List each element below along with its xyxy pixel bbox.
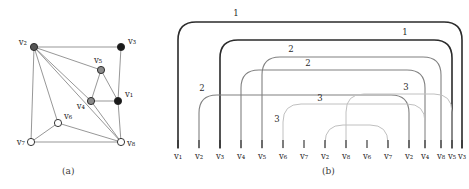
arc-label-2: 2: [288, 44, 293, 54]
arc-label-1: 1: [233, 8, 238, 18]
graph-edge: [118, 101, 121, 142]
spine-label-2: v₂: [194, 151, 203, 161]
graph-edge: [31, 123, 58, 142]
graph-edge: [58, 123, 121, 142]
spine-label-10: v₆: [362, 151, 372, 161]
figure-container: v₁v₂v₃v₄v₅v₆v₇v₈ 11222333v₁v₂v₃v₄v₅v₆v₇v…: [0, 0, 469, 189]
graph-edge: [31, 47, 34, 142]
arc-label-3: 3: [317, 93, 322, 103]
graph-vertex-v5[interactable]: [97, 66, 104, 73]
arc-label-1: 1: [402, 27, 407, 37]
graph-vertex-label-v5: v₅: [93, 55, 103, 65]
graph-edge: [34, 47, 121, 142]
spine-label-3: v₃: [215, 151, 224, 161]
spine-label-16: v₃: [457, 151, 466, 161]
graph-vertex-label-v3: v₃: [127, 36, 136, 46]
spine-label-8: v₂: [320, 151, 329, 161]
arc-label-3: 3: [403, 82, 408, 92]
arc-label-2: 2: [305, 58, 310, 68]
arc-page-2: [241, 70, 425, 148]
graph-vertex-v2[interactable]: [30, 43, 37, 50]
caption-panel-a: (a): [62, 166, 74, 176]
spine-label-1: v₁: [173, 151, 182, 161]
spine-label-7: v₇: [299, 151, 309, 161]
spine-label-14: v₈: [436, 151, 446, 161]
graph-vertex-label-v4: v₄: [76, 101, 86, 111]
graph-vertex-v6[interactable]: [54, 119, 61, 126]
graph-edge: [101, 70, 118, 101]
spine-label-13: v₄: [420, 151, 430, 161]
graph-vertex-v1[interactable]: [114, 97, 121, 104]
arc-label-3: 3: [274, 114, 279, 124]
graph-vertex-label-v1: v₁: [124, 89, 133, 99]
graph-vertex-v8[interactable]: [117, 138, 124, 145]
spine-label-11: v₇: [383, 151, 393, 161]
graph-edge: [91, 101, 121, 142]
graph-edge: [91, 70, 101, 101]
graph-edge: [34, 47, 101, 70]
spine-label-12: v₂: [404, 151, 413, 161]
spine-label-4: v₄: [236, 151, 246, 161]
graph-vertex-v7[interactable]: [27, 138, 34, 145]
arc-page-3: [325, 125, 388, 148]
graph-vertex-label-v8: v₈: [126, 138, 136, 148]
graph-vertex-label-v2: v₂: [18, 37, 27, 47]
graph-edge: [118, 47, 121, 101]
caption-panel-b: (b): [322, 166, 335, 176]
graph-vertex-label-v6: v₆: [63, 111, 73, 121]
arc-page-3: [346, 94, 452, 148]
graph-vertex-label-v7: v₇: [16, 137, 26, 147]
spine-label-6: v₆: [278, 151, 288, 161]
graph-vertex-v3[interactable]: [117, 43, 124, 50]
arc-label-2: 2: [199, 83, 204, 93]
spine-label-5: v₅: [257, 151, 267, 161]
panel-b-arc-diagram: 11222333v₁v₂v₃v₄v₅v₆v₇v₂v₈v₆v₇v₂v₄v₈v₅v₃: [173, 8, 466, 161]
panel-a-graph-drawing: v₁v₂v₃v₄v₅v₆v₇v₈: [16, 36, 136, 148]
figure-svg: v₁v₂v₃v₄v₅v₆v₇v₈ 11222333v₁v₂v₃v₄v₅v₆v₇v…: [0, 0, 469, 189]
graph-vertex-v4[interactable]: [87, 97, 94, 104]
spine-label-9: v₈: [341, 151, 351, 161]
spine-label-15: v₅: [447, 151, 457, 161]
